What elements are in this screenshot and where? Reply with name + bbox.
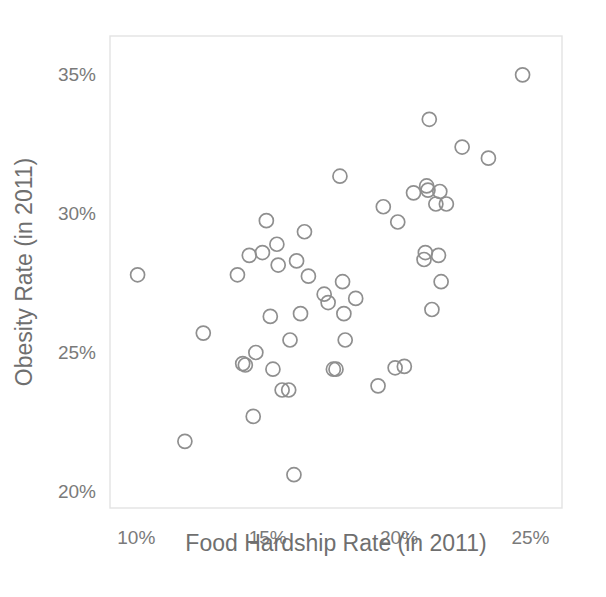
data-point	[516, 68, 530, 82]
chart-canvas: 10%15%20%25% 20%25%30%35% Food Hardship …	[0, 0, 606, 597]
data-point	[266, 362, 280, 376]
data-point	[283, 333, 297, 347]
x-tick-label: 10%	[117, 527, 155, 548]
data-point	[333, 169, 347, 183]
data-point	[321, 296, 335, 310]
data-point	[294, 307, 308, 321]
data-point	[287, 468, 301, 482]
data-point	[407, 186, 421, 200]
data-points-layer	[131, 68, 530, 482]
data-point	[481, 151, 495, 165]
data-point	[371, 379, 385, 393]
y-tick-label: 20%	[58, 481, 96, 502]
data-point	[397, 359, 411, 373]
data-point	[178, 434, 192, 448]
data-point	[422, 112, 436, 126]
y-axis-tick-labels: 20%25%30%35%	[58, 64, 96, 501]
data-point	[391, 215, 405, 229]
data-point	[301, 269, 315, 283]
data-point	[290, 254, 304, 268]
y-tick-label: 35%	[58, 64, 96, 85]
data-point	[431, 248, 445, 262]
data-point	[336, 275, 350, 289]
y-axis-title: Obesity Rate (in 2011)	[11, 158, 37, 386]
data-point	[434, 275, 448, 289]
data-point	[349, 291, 363, 305]
data-point	[259, 214, 273, 228]
data-point	[246, 409, 260, 423]
data-point	[317, 287, 331, 301]
data-point	[249, 346, 263, 360]
data-point	[255, 246, 269, 260]
data-point	[131, 268, 145, 282]
data-point	[196, 326, 210, 340]
x-axis-title: Food Hardship Rate (in 2011)	[185, 530, 486, 556]
scatter-chart: 10%15%20%25% 20%25%30%35% Food Hardship …	[0, 0, 606, 597]
data-point	[338, 333, 352, 347]
y-tick-label: 25%	[58, 342, 96, 363]
y-tick-label: 30%	[58, 203, 96, 224]
data-point	[425, 302, 439, 316]
data-point	[230, 268, 244, 282]
data-point	[337, 307, 351, 321]
data-point	[376, 200, 390, 214]
data-point	[271, 258, 285, 272]
plot-area-frame	[110, 36, 562, 508]
data-point	[297, 225, 311, 239]
data-point	[270, 237, 284, 251]
x-tick-label: 25%	[511, 527, 549, 548]
data-point	[439, 197, 453, 211]
data-point	[242, 248, 256, 262]
data-point	[455, 140, 469, 154]
data-point	[263, 309, 277, 323]
